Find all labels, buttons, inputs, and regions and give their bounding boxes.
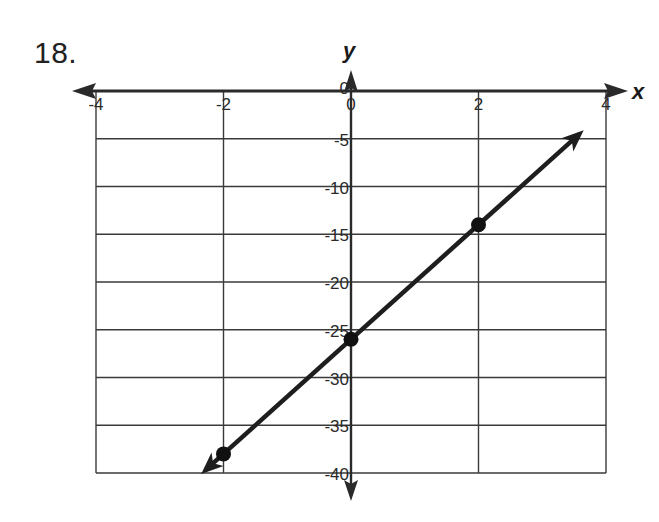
y-tick-label: -15: [324, 226, 349, 245]
line-segment: [206, 134, 580, 470]
y-tick-label: -5: [334, 131, 349, 150]
x-tick-label: -4: [88, 95, 103, 114]
plotted-line: [201, 130, 584, 474]
line-graph: xy-4-20240-5-10-15-20-25-30-35-40: [0, 0, 659, 522]
x-tick-label: 2: [474, 95, 483, 114]
data-point: [471, 217, 486, 232]
y-tick-label: -35: [324, 417, 349, 436]
y-tick-label: 0: [340, 79, 349, 98]
axes: [72, 70, 628, 501]
y-tick-label: -30: [324, 370, 349, 389]
x-tick-label: -2: [216, 95, 231, 114]
data-point: [216, 446, 231, 461]
y-tick-label: -40: [324, 465, 349, 484]
x-tick-label: 4: [601, 95, 610, 114]
data-point: [344, 332, 359, 347]
x-axis-label: x: [631, 79, 645, 104]
y-tick-label: -10: [324, 179, 349, 198]
tick-labels: xy-4-20240-5-10-15-20-25-30-35-40: [88, 38, 645, 484]
y-tick-label: -20: [324, 274, 349, 293]
y-axis-label: y: [342, 38, 357, 63]
